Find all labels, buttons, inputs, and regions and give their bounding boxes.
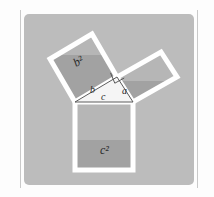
leg-a-label: a: [122, 85, 127, 96]
pythagorean-theorem-diagram: b² c² b a c: [0, 0, 214, 197]
figure-container: b² c² b a c: [0, 0, 214, 197]
leg-b-label: b: [90, 84, 95, 95]
hypotenuse-c-label: c: [101, 91, 106, 102]
square-c-squared: c²: [75, 102, 133, 172]
square-c-light-band: [75, 102, 133, 140]
square-c-label: c²: [100, 143, 109, 157]
